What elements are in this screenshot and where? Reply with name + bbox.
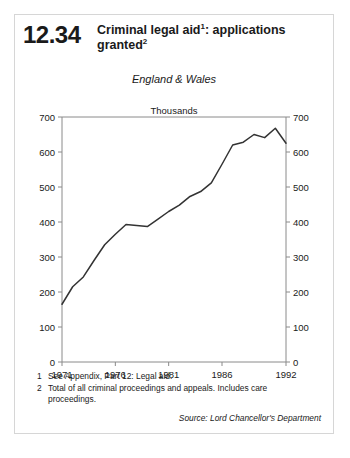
footnote-list: 1 See Appendix, Part 12: Legal aid. 2 To… (37, 371, 315, 406)
axis-tick-label: 300 (39, 252, 55, 263)
axis-tick-label: 300 (293, 252, 309, 263)
axis-tick-label: 100 (39, 322, 55, 333)
axis-tick-label: 200 (39, 287, 55, 298)
data-series-line (62, 128, 286, 304)
footnote-number: 1 (37, 371, 42, 383)
axis-tick-label: 100 (293, 322, 309, 333)
axis-tick-label: 600 (39, 147, 55, 158)
axis-tick-label: 0 (293, 357, 298, 368)
axis-tick-label: 600 (293, 147, 309, 158)
footnote-number: 2 (37, 383, 42, 395)
axis-tick-label: 700 (293, 112, 309, 123)
axis-tick-label: 400 (293, 217, 309, 228)
axis-tick-label: 0 (50, 357, 55, 368)
axis-tick-label: 500 (293, 182, 309, 193)
axis-tick-label: 400 (39, 217, 55, 228)
footnote-item: 1 See Appendix, Part 12: Legal aid. (37, 371, 315, 383)
source-attribution: Source: Lord Chancellor's Department (179, 413, 321, 423)
figure-card: 12.34 Criminal legal aid1: applications … (14, 14, 334, 434)
axis-tick-label: 700 (39, 112, 55, 123)
footnote-text: Total of all criminal proceedings and ap… (48, 383, 267, 405)
axis-tick-label: 500 (39, 182, 55, 193)
axis-tick-label: 200 (293, 287, 309, 298)
footnote-text: See Appendix, Part 12: Legal aid. (48, 371, 172, 381)
footnote-item: 2 Total of all criminal proceedings and … (37, 383, 315, 406)
